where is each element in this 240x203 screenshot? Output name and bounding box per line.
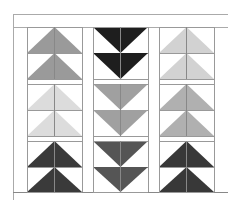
flying-geese-diagram [0, 0, 240, 203]
